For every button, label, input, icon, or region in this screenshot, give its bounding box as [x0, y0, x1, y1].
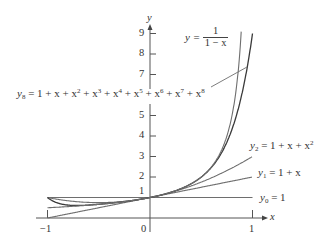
label-y1: y1 = 1 + x: [258, 167, 301, 180]
origin-label: 0: [141, 224, 146, 235]
label-y8-rhs-prefix: = 1 + x + x: [28, 87, 77, 99]
label-reciprocal: y = 1 1 − x: [185, 26, 228, 48]
label-y8: y8 = 1 + x + x2 + x3 + x4 + x5 + x6 + x7…: [17, 88, 205, 101]
curve-reciprocal: [48, 32, 242, 208]
x-axis-arrow-icon: [262, 216, 268, 221]
y-tick-label-9: 9: [139, 28, 144, 39]
label-y8-term: + x: [163, 87, 180, 99]
fraction-numerator: 1: [203, 26, 229, 37]
label-y8-exponent: 8: [201, 87, 205, 95]
label-y0-sub: 0: [265, 197, 269, 205]
label-y2-sub: 2: [255, 145, 259, 153]
x-axis-label: x: [270, 212, 275, 223]
label-y1-rhs: = 1 + x: [269, 166, 301, 178]
label-y8-term: + x: [122, 87, 139, 99]
fraction: 1 1 − x: [203, 26, 229, 48]
label-y0-rhs: = 1: [271, 191, 285, 203]
label-y8-rhs: = 1 + x + x2 + x3 + x4 + x5 + x6 + x7 + …: [28, 87, 205, 99]
y-axis-arrow-icon: [148, 24, 153, 30]
fraction-denominator: 1 − x: [203, 37, 229, 49]
label-reciprocal-lhs: y =: [185, 31, 200, 43]
y-tick-label-2: 2: [139, 171, 144, 182]
y-tick-label-4: 4: [139, 130, 144, 141]
label-y8-term: + x: [143, 87, 160, 99]
y8-leader-line: [211, 67, 247, 87]
y-tick-label-3: 3: [139, 151, 144, 162]
y-tick-label-5: 5: [139, 110, 144, 121]
label-y1-sub: 1: [263, 172, 267, 180]
x-tick-label-1: 1: [249, 224, 254, 235]
y-tick-label-7: 7: [139, 69, 144, 80]
label-y8-term: + x: [184, 87, 201, 99]
label-y2: y2 = 1 + x + x2: [250, 140, 314, 153]
label-y2-rhs: = 1 + x + x: [261, 139, 310, 151]
label-y2-sup: 2: [310, 139, 314, 147]
y-tick-label-8: 8: [139, 48, 144, 59]
y-tick-label-1: 1: [139, 186, 144, 197]
label-y8-term: + x: [101, 87, 118, 99]
label-y0: y0 = 1: [260, 192, 286, 205]
plot-canvas: [0, 0, 336, 242]
y-axis-label: y: [147, 13, 152, 24]
label-y8-sub: 8: [22, 93, 26, 101]
label-y8-term: + x: [81, 87, 98, 99]
x-tick-label-neg1: −1: [40, 224, 51, 235]
